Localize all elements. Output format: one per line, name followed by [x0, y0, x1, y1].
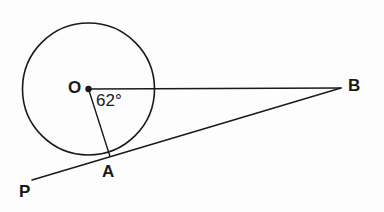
segment-ob [89, 88, 342, 89]
center-point-dot [85, 86, 91, 92]
geometry-figure: O 62° A B P [0, 0, 384, 212]
label-point-o: O [68, 79, 81, 96]
label-point-p: P [19, 183, 30, 200]
label-angle-62: 62° [96, 92, 122, 109]
label-point-b: B [348, 77, 360, 94]
label-point-a: A [102, 163, 114, 180]
geometry-canvas [0, 0, 384, 212]
segment-pb-tangent [32, 88, 341, 180]
